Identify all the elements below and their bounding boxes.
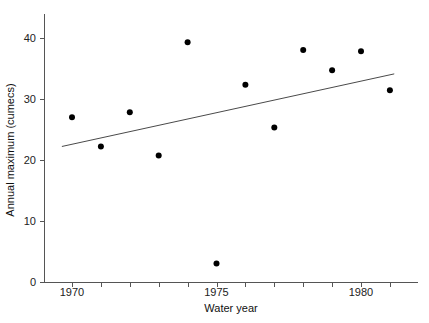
- data-point: [98, 143, 104, 149]
- x-tick-label-1975: 1975: [204, 286, 228, 298]
- plot-canvas: 0 10 20 30 40 1970 1975 1980 Water year …: [0, 0, 429, 323]
- x-axis-ticks: [73, 283, 391, 288]
- data-point: [185, 39, 191, 45]
- trend-line: [62, 74, 394, 147]
- y-axis-title: Annual maximum (cumecs): [4, 83, 16, 216]
- data-point: [387, 87, 393, 93]
- y-tick-label-0: 0: [30, 276, 36, 288]
- data-point: [329, 67, 335, 73]
- x-tick-label-1970: 1970: [60, 286, 84, 298]
- data-point: [358, 48, 364, 54]
- y-tick-label-30: 30: [24, 93, 36, 105]
- x-tick-label-1980: 1980: [349, 286, 373, 298]
- data-point: [69, 114, 75, 120]
- data-point-group: [69, 39, 393, 266]
- scatter-plot-figure: 0 10 20 30 40 1970 1975 1980 Water year …: [0, 0, 429, 323]
- data-point: [300, 47, 306, 53]
- data-point: [214, 261, 220, 267]
- data-point: [242, 82, 248, 88]
- y-tick-label-40: 40: [24, 32, 36, 44]
- data-point: [271, 125, 277, 131]
- data-point: [156, 153, 162, 159]
- y-tick-label-10: 10: [24, 215, 36, 227]
- data-point: [127, 109, 133, 115]
- y-axis-ticks: [40, 39, 45, 283]
- x-axis-title: Water year: [204, 302, 258, 314]
- y-tick-label-20: 20: [24, 154, 36, 166]
